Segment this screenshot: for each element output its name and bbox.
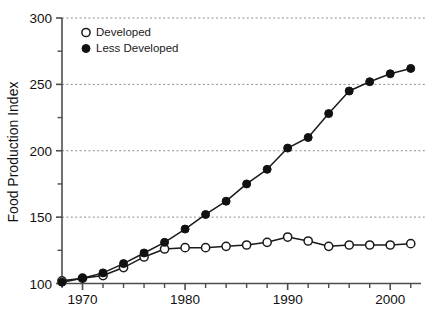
y-tick-label-300: 300 [29, 11, 52, 26]
data-point [243, 180, 251, 188]
data-point [325, 110, 333, 118]
y-tick-label-200: 200 [29, 144, 52, 159]
y-tick-label-100: 100 [29, 277, 52, 292]
data-point [407, 240, 415, 248]
data-point [202, 244, 210, 252]
data-point [345, 241, 353, 249]
y-tick-label-250: 250 [29, 77, 52, 92]
data-point [222, 197, 230, 205]
data-point [304, 133, 312, 141]
data-point [99, 269, 107, 277]
x-tick-label-2000: 2000 [375, 292, 405, 307]
data-point [345, 87, 353, 95]
food-production-index-chart: 100150200250300 1970198019902000 Food Pr… [0, 0, 442, 316]
data-point [325, 242, 333, 250]
data-point [161, 238, 169, 246]
data-point [304, 237, 312, 245]
data-point [284, 144, 292, 152]
legend-marker-less-developed [82, 45, 90, 53]
x-tick-label-1970: 1970 [67, 292, 97, 307]
data-point [202, 210, 210, 218]
data-point [366, 241, 374, 249]
data-point [407, 64, 415, 72]
x-tick-label-1990: 1990 [273, 292, 303, 307]
x-tick-label-1980: 1980 [170, 292, 200, 307]
data-point [222, 242, 230, 250]
data-point [243, 241, 251, 249]
data-point [181, 244, 189, 252]
chart-canvas: 100150200250300 1970198019902000 Food Pr… [0, 0, 442, 316]
data-point [386, 70, 394, 78]
data-point [79, 274, 87, 282]
legend-label-developed: Developed [96, 26, 151, 38]
legend-marker-developed [82, 28, 90, 36]
chart-background [0, 0, 442, 316]
legend-label-less-developed: Less Developed [96, 42, 178, 54]
data-point [366, 78, 374, 86]
data-point [284, 233, 292, 241]
data-point [263, 165, 271, 173]
data-point [181, 225, 189, 233]
data-point [120, 260, 128, 268]
data-point [140, 249, 148, 257]
data-point [386, 241, 394, 249]
y-axis-title: Food Production Index [5, 82, 21, 223]
data-point [58, 278, 66, 286]
data-point [263, 238, 271, 246]
y-tick-label-150: 150 [29, 210, 52, 225]
